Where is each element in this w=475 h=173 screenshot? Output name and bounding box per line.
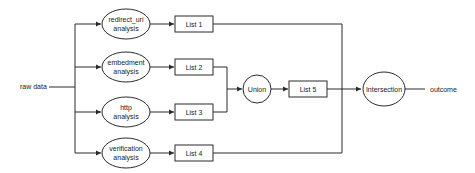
list-1-label: List 1 [186,21,203,28]
analysis-node-redirect-uri: redirect_uri analysis [102,9,150,39]
union-merge-edge [213,67,227,112]
analysis-node-verification: verification analysis [102,138,150,168]
analysis-2-line1: embedment [108,59,145,66]
list-box-4: List 4 [175,145,213,161]
list-5-label: List 5 [300,86,317,93]
list-box-3: List 3 [175,104,213,120]
analysis-2-line2: analysis [113,68,139,76]
analysis-3-line2: analysis [113,113,139,121]
flow-diagram: raw data redirect_uri analysis embedment… [0,0,475,173]
output-label: outcome [430,86,457,93]
analysis-4-line1: verification [109,145,143,152]
analysis-node-embedment: embedment analysis [102,52,150,82]
union-node: Union [243,75,271,103]
analysis-1-line1: redirect_uri [108,16,143,24]
analysis-1-line2: analysis [113,25,139,33]
list-box-2: List 2 [175,59,213,75]
list-box-5: List 5 [289,81,327,97]
input-label: raw data [20,83,47,90]
analysis-3-line1: http [120,104,132,112]
list-2-label: List 2 [186,64,203,71]
list-3-label: List 3 [186,109,203,116]
intersection-label: Intersection [366,86,402,93]
list-box-1: List 1 [175,16,213,32]
intersection-node: Intersection [363,72,405,106]
analysis-4-line2: analysis [113,154,139,162]
union-label: Union [248,86,266,93]
analysis-node-http: http analysis [102,97,150,127]
list-4-label: List 4 [186,150,203,157]
